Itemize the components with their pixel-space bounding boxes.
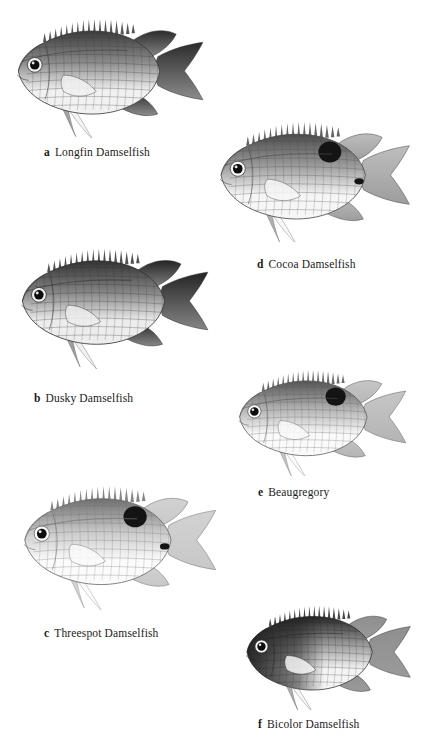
- figure-caption-b: bDusky Damselfish: [34, 392, 133, 405]
- figure-name-e: Beaugregory: [268, 486, 329, 498]
- figure-label-c: c: [44, 627, 49, 639]
- figure-name-a: Longfin Damselfish: [55, 146, 150, 158]
- fish-illustration-d: [206, 106, 416, 242]
- eye: [31, 287, 46, 302]
- figure-caption-e: eBeaugregory: [258, 486, 329, 499]
- eye: [255, 640, 268, 653]
- figure-plate: aLongfin Damselfish: [0, 0, 444, 740]
- fish-body-a: [4, 2, 209, 138]
- fish-body-d: [206, 106, 416, 242]
- figure-caption-d: dCocoa Damselfish: [257, 258, 356, 271]
- fish-body-f: [216, 592, 434, 710]
- figure-caption-c: cThreespot Damselfish: [44, 627, 159, 640]
- figure-label-d: d: [257, 258, 264, 270]
- fish-illustration-e: [212, 356, 426, 476]
- eye: [230, 161, 245, 176]
- fish-illustration-c: [10, 465, 222, 613]
- figure-caption-a: aLongfin Damselfish: [44, 146, 150, 159]
- fish-body-c: [10, 465, 222, 613]
- figure-label-e: e: [258, 486, 263, 498]
- fish-illustration-a: [4, 2, 209, 138]
- figure-name-c: Threespot Damselfish: [54, 627, 158, 639]
- figure-label-a: a: [44, 146, 50, 158]
- figure-caption-f: fBicolor Damselfish: [258, 718, 359, 731]
- figure-name-d: Cocoa Damselfish: [269, 258, 356, 270]
- fish-illustration-b: [8, 227, 214, 373]
- fish-body-e: [212, 356, 426, 476]
- eye: [248, 405, 261, 418]
- eye: [34, 526, 49, 541]
- figure-label-f: f: [258, 718, 262, 730]
- figure-name-b: Dusky Damselfish: [46, 392, 134, 404]
- figure-name-f: Bicolor Damselfish: [267, 718, 359, 730]
- fish-illustration-f: [216, 592, 434, 710]
- eye: [27, 57, 42, 72]
- fish-body-b: [8, 227, 214, 373]
- figure-label-b: b: [34, 392, 41, 404]
